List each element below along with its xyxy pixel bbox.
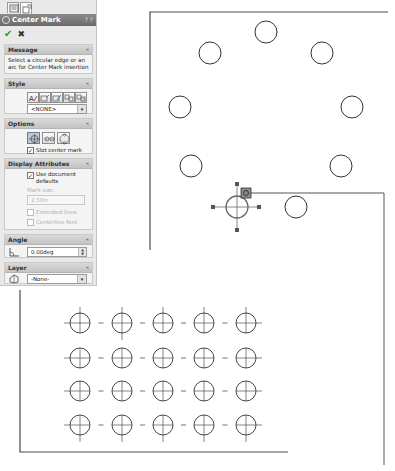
layer-select-value: -None-	[31, 276, 49, 282]
grid-hole[interactable]	[64, 307, 90, 333]
property-manager-tab[interactable]	[7, 2, 19, 13]
grid-hole[interactable]	[64, 415, 90, 442]
grid-hole[interactable]	[112, 307, 132, 333]
style-button-5[interactable]	[75, 92, 87, 103]
mark-size-input[interactable]: 2.50in	[27, 195, 85, 205]
angle-group-header[interactable]: Angle «	[5, 235, 92, 245]
bolt-circle-holes[interactable]	[169, 21, 363, 218]
message-group-header[interactable]: Message «	[5, 45, 92, 55]
svg-text:A: A	[29, 95, 34, 103]
hole-circle[interactable]	[180, 155, 202, 177]
message-group: Message « Select a circular edge or an a…	[4, 44, 93, 74]
hole-circle[interactable]	[169, 96, 191, 118]
layer-select[interactable]: -None- ▾	[27, 274, 87, 284]
group-title: Options	[8, 120, 34, 127]
style-group: Style « A <NONE> ▾	[4, 78, 93, 114]
chevron-down-icon[interactable]: ▾	[77, 105, 86, 113]
help-icon[interactable]: ? ?	[85, 14, 93, 26]
panel-title: Center Mark	[12, 14, 61, 26]
ok-button[interactable]: ✔	[4, 29, 12, 39]
angle-spinner[interactable]: ▲▼	[78, 248, 86, 256]
grid-hole[interactable]	[194, 348, 214, 368]
ok-cancel-row: ✔ ✖	[4, 28, 25, 40]
grid-hole[interactable]	[194, 307, 214, 333]
collapse-icon[interactable]: «	[86, 79, 89, 88]
cursor-center-mark-icon	[241, 188, 251, 198]
linear-center-mark-icon	[43, 133, 56, 145]
layer-group-header[interactable]: Layer «	[5, 263, 92, 273]
style-button-3[interactable]	[51, 92, 63, 103]
grid-hole[interactable]	[153, 381, 173, 401]
centerline-font-checkbox[interactable]	[27, 219, 34, 226]
slot-center-mark-label: Slot center mark	[36, 147, 82, 154]
drag-handle[interactable]	[211, 205, 215, 209]
group-title: Angle	[8, 236, 27, 243]
style-button-4[interactable]	[63, 92, 75, 103]
circular-center-mark-icon	[58, 133, 71, 145]
collapse-icon[interactable]: «	[86, 263, 89, 272]
apply-default-style-icon: A	[28, 93, 39, 103]
hole-circle[interactable]	[341, 96, 363, 118]
angle-input[interactable]: 0.00deg ▲▼	[27, 247, 87, 257]
drawing-view-frame-lower[interactable]	[20, 290, 288, 452]
slot-center-mark-checkbox[interactable]: ✓	[27, 147, 34, 154]
extended-lines-label: Extended lines	[36, 209, 77, 216]
hole-circle[interactable]	[199, 42, 221, 64]
chevron-down-icon[interactable]: ▾	[77, 275, 86, 283]
collapse-icon[interactable]: «	[86, 119, 89, 128]
grid-hole[interactable]	[112, 415, 132, 442]
grid-hole[interactable]	[236, 348, 262, 368]
grid-hole[interactable]	[64, 381, 90, 401]
display-attributes-group-header[interactable]: Display Attributes «	[5, 159, 92, 169]
circular-center-mark-button[interactable]	[57, 132, 70, 144]
style-button-1[interactable]: A	[27, 92, 39, 103]
single-center-mark-icon	[28, 133, 41, 145]
drag-handle[interactable]	[257, 205, 261, 209]
options-group-header[interactable]: Options «	[5, 119, 92, 129]
style-select[interactable]: <NONE> ▾	[27, 104, 87, 114]
hole-circle[interactable]	[255, 21, 277, 43]
collapse-icon[interactable]: «	[86, 45, 89, 54]
update-style-icon	[52, 93, 63, 103]
drag-handle[interactable]	[235, 228, 239, 232]
property-list-icon	[9, 4, 19, 13]
grid-hole[interactable]	[236, 415, 262, 442]
extended-lines-checkbox[interactable]	[27, 209, 34, 216]
grid-hole[interactable]	[236, 307, 262, 333]
hole-circle[interactable]	[311, 42, 333, 64]
grid-hole[interactable]	[64, 348, 90, 368]
grid-hole[interactable]	[153, 415, 173, 442]
grid-hole[interactable]	[194, 415, 214, 442]
group-title: Layer	[8, 264, 27, 271]
drawing-view-frame-upper[interactable]	[150, 12, 388, 250]
cancel-button[interactable]: ✖	[17, 29, 25, 39]
linear-center-mark-button[interactable]	[42, 132, 55, 144]
message-text: Select a circular edge or an arc for Cen…	[5, 55, 92, 73]
grid-hole[interactable]	[194, 381, 214, 401]
grid-hole[interactable]	[112, 348, 132, 368]
hole-circle[interactable]	[285, 196, 307, 218]
style-select-value: <NONE>	[31, 106, 56, 112]
style-button-2[interactable]	[39, 92, 51, 103]
configuration-tab[interactable]	[20, 2, 32, 14]
group-title: Display Attributes	[8, 160, 69, 167]
use-document-defaults-checkbox[interactable]: ✓	[27, 172, 34, 179]
collapse-icon[interactable]: «	[86, 235, 89, 244]
group-title: Message	[8, 46, 38, 53]
grid-hole[interactable]	[112, 381, 132, 401]
selected-hole-with-center-mark[interactable]	[211, 182, 261, 232]
grid-hole[interactable]	[153, 348, 173, 368]
mark-size-label: Mark size:	[27, 187, 55, 194]
hole-grid-with-center-marks[interactable]	[64, 307, 262, 442]
grid-hole[interactable]	[153, 307, 173, 333]
layer-icon	[8, 274, 20, 284]
save-style-icon	[64, 93, 75, 103]
grid-hole[interactable]	[236, 381, 262, 401]
collapse-icon[interactable]: «	[86, 159, 89, 168]
hole-circle[interactable]	[330, 155, 352, 177]
drag-handle[interactable]	[235, 182, 239, 186]
add-style-icon	[40, 93, 51, 103]
style-group-header[interactable]: Style «	[5, 79, 92, 89]
single-center-mark-button[interactable]	[27, 132, 40, 144]
drawing-view-frame-selected[interactable]	[250, 193, 384, 465]
